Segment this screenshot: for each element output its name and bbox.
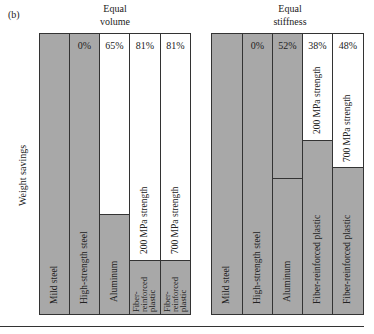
bottom-rule [0,326,364,327]
savings-percent: 81% [130,40,160,51]
panel-title-line1: Equal [85,2,145,15]
material-label: Fiber- reinforced plastic [132,277,156,312]
material-label: Mild steel [221,266,231,304]
bar-frp-200mpa: 81% 200 MPa strength Fiber- reinforced p… [129,33,161,315]
strength-label: 700 MPa strength [170,186,180,254]
bar-frp-700mpa: 48% 700 MPa strength Fiber-reinforced pl… [332,33,364,315]
bar-frp-700mpa: 81% 700 MPa strength Fiber- reinforced p… [160,33,191,315]
panel-title-equal-stiffness: Equal stiffness [260,2,320,28]
strength-label: 200 MPa strength [139,186,149,254]
bar-high-strength-steel: 0% High-strength steel [69,33,100,315]
bar-aluminum: 65% Aluminum [99,33,130,315]
strength-label: 200 MPa strength [312,66,322,134]
y-axis-label: Weight savings [17,140,28,212]
panel-title-line2: stiffness [260,15,320,28]
material-label: Fiber-reinforced plastic [342,215,352,304]
bar-mild-steel: Mild steel [211,33,243,315]
material-label: Aluminum [282,261,292,302]
figure-label: (b) [8,9,20,20]
savings-percent: 38% [303,40,332,51]
savings-percent: 0% [243,40,272,51]
bar-high-strength-steel: 0% High-strength steel [242,33,273,315]
material-label: Mild steel [49,266,59,304]
strength-label: 700 MPa strength [342,94,352,162]
bar-aluminum: 52% Aluminum [272,33,303,315]
panel-title-line2: volume [85,15,145,28]
savings-percent: 48% [333,40,363,51]
material-label: High-strength steel [252,231,262,304]
material-label: High-strength steel [79,231,89,304]
savings-percent: 0% [70,40,99,51]
material-label: Fiber-reinforced plastic [312,215,322,304]
panel-title-equal-volume: Equal volume [85,2,145,28]
aluminum-divider-line [273,178,302,179]
savings-percent: 81% [161,40,190,51]
savings-percent: 65% [100,40,129,51]
panel-equal-volume: Mild steel 0% High-strength steel 65% Al… [39,33,191,315]
savings-percent: 52% [273,40,302,51]
material-label: Aluminum [109,261,119,302]
panel-title-line1: Equal [260,2,320,15]
panel-equal-stiffness: Mild steel 0% High-strength steel 52% Al… [211,33,364,315]
bar-mild-steel: Mild steel [39,33,70,315]
bar-frp-200mpa: 38% 200 MPa strength Fiber-reinforced pl… [302,33,333,315]
material-label: Fiber- reinforced plastic [163,277,187,312]
